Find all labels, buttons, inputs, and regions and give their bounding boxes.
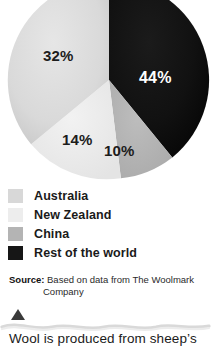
legend-swatch-china — [8, 227, 23, 241]
pie-label-rest-of-the-world: 44% — [139, 69, 172, 87]
legend-label-new-zealand: New Zealand — [34, 208, 112, 222]
source-label: Source: — [9, 274, 44, 285]
source-note: Source: Based on data from The Woolmark … — [9, 274, 205, 298]
legend-item-rest-of-the-world: Rest of the world — [8, 243, 208, 262]
pie-label-china: 10% — [104, 142, 135, 159]
source-text-line-1: Based on data from The Woolmark — [47, 274, 194, 285]
pie-label-australia: 32% — [43, 47, 74, 64]
source-text-line-2: Company — [43, 286, 205, 298]
pie-chart: 44% 32% 14% 10% — [0, 0, 211, 181]
legend-item-china: China — [8, 224, 208, 243]
legend-label-australia: Australia — [34, 189, 88, 203]
legend-swatch-australia — [8, 189, 23, 203]
wavy-divider — [0, 318, 211, 332]
legend-label-rest-of-the-world: Rest of the world — [34, 246, 137, 260]
legend-item-australia: Australia — [8, 186, 208, 205]
pie-label-new-zealand: 14% — [62, 131, 93, 148]
legend-swatch-rest-of-the-world — [8, 246, 23, 260]
legend-swatch-new-zealand — [8, 208, 23, 222]
legend-item-new-zealand: New Zealand — [8, 205, 208, 224]
legend-label-china: China — [34, 227, 69, 241]
chart-legend: Australia New Zealand China Rest of the … — [8, 186, 208, 262]
body-caption-text: Wool is produced from sheep’s — [9, 331, 197, 346]
